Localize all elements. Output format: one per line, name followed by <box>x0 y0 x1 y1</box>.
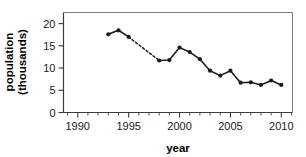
data-point <box>228 69 232 73</box>
y-axis-title-line1: population <box>3 33 15 92</box>
y-tick-label: 10 <box>43 62 55 74</box>
y-axis-title-line2: (thousands) <box>16 29 28 95</box>
data-point <box>106 32 110 36</box>
line-chart: 19901995200020052010 05101520 year popul… <box>0 0 306 157</box>
data-point <box>238 81 242 85</box>
data-point <box>198 57 202 61</box>
data-point <box>249 80 253 84</box>
data-point <box>218 74 222 78</box>
x-tick-label: 2010 <box>269 120 293 132</box>
data-point <box>157 58 161 62</box>
data-point <box>177 46 181 50</box>
data-point <box>279 83 283 87</box>
data-point <box>167 58 171 62</box>
data-point <box>116 28 120 32</box>
y-tick-label: 0 <box>49 107 55 119</box>
chart-figure: 19901995200020052010 05101520 year popul… <box>0 0 306 157</box>
x-tick-label: 1990 <box>66 120 90 132</box>
x-tick-label: 2005 <box>218 120 242 132</box>
data-point <box>127 35 131 39</box>
data-point <box>188 50 192 54</box>
y-tick-label: 20 <box>43 18 55 30</box>
data-point <box>269 78 273 82</box>
y-tick-label: 5 <box>49 84 55 96</box>
x-axis-title: year <box>166 142 190 154</box>
x-tick-label: 2000 <box>167 120 191 132</box>
data-point <box>208 69 212 73</box>
y-tick-label: 15 <box>43 40 55 52</box>
data-point <box>259 83 263 87</box>
x-tick-label: 1995 <box>116 120 140 132</box>
